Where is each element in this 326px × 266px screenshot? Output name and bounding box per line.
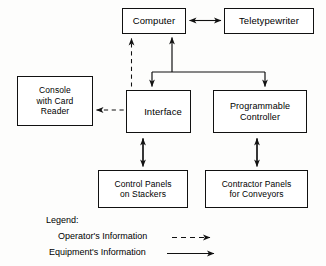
- legend-item-operators-information-label: Operator's Information: [58, 231, 147, 241]
- legend-title: Legend:: [46, 215, 79, 225]
- block-diagram-root: Computer Teletypewriter Console with Car…: [0, 0, 326, 266]
- legend: Legend: Operator's Information Equipment…: [0, 0, 326, 266]
- legend-item-equipments-information-label: Equipment's Information: [49, 247, 146, 257]
